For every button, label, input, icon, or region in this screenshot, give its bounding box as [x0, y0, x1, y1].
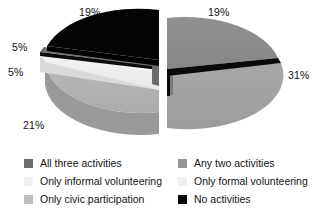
pie-chart-figure: 19% 5% 5% 21% 19% 31% All three activiti… [0, 0, 326, 214]
legend-column-left: All three activities Only informal volun… [24, 155, 162, 209]
chart-legend: All three activities Only informal volun… [0, 152, 326, 214]
legend-swatch-icon [24, 159, 33, 168]
legend-swatch-icon [178, 177, 187, 186]
slice-separator-right-wall [167, 74, 170, 96]
legend-label: All three activities [40, 158, 122, 169]
legend-item-no-activities[interactable]: No activities [178, 191, 308, 207]
legend-item-any-two-activities[interactable]: Any two activities [178, 155, 308, 171]
legend-item-only-civic-participation[interactable]: Only civic participation [24, 191, 162, 207]
pie-label-no-activities: 19% [79, 6, 101, 18]
legend-swatch-icon [24, 195, 33, 204]
legend-label: Only formal volunteering [194, 176, 308, 187]
pie-group-left [40, 9, 159, 135]
legend-label: Only informal volunteering [40, 176, 162, 187]
legend-swatch-icon [24, 177, 33, 186]
legend-item-all-three-activities[interactable]: All three activities [24, 155, 162, 171]
legend-item-only-formal-volunteering[interactable]: Only formal volunteering [178, 173, 308, 189]
legend-label: No activities [194, 194, 251, 205]
pie-chart-svg [0, 0, 326, 152]
legend-label: Only civic participation [40, 194, 144, 205]
pie-label-only-civic: 21% [23, 119, 45, 131]
pie-group-right [167, 17, 284, 129]
legend-column-right: Any two activities Only formal volunteer… [178, 155, 308, 209]
pie-label-all-three: 5% [12, 41, 28, 53]
legend-label: Any two activities [194, 158, 275, 169]
pie-label-only-formal: 31% [288, 69, 310, 81]
pie-chart-plot-area: 19% 5% 5% 21% 19% 31% [0, 0, 326, 152]
legend-item-only-informal-volunteering[interactable]: Only informal volunteering [24, 173, 162, 189]
pie-label-only-informal: 5% [8, 66, 24, 78]
legend-swatch-icon [178, 195, 187, 204]
legend-swatch-icon [178, 159, 187, 168]
pie-label-any-two: 19% [208, 6, 230, 18]
